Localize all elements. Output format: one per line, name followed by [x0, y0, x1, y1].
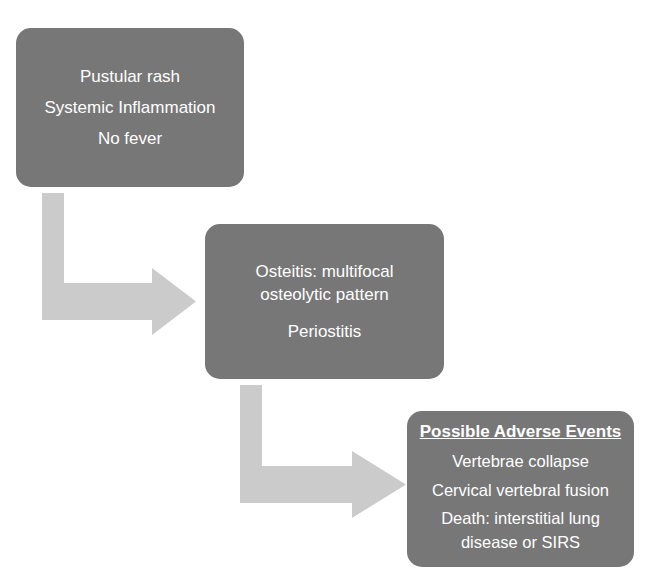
node-osteitis-line-3: Periostitis [215, 320, 434, 343]
node-adverse-line-2: Cervical vertebral fusion [413, 479, 628, 501]
node-osteitis-line-1: Osteitis: multifocal [256, 260, 394, 283]
node-symptoms-line-3: No fever [24, 126, 236, 151]
node-adverse-line-3: Death: interstitial lung [441, 508, 600, 529]
node-adverse-events: Possible Adverse Events Vertebrae collap… [407, 411, 634, 567]
node-osteitis-line-2: osteolytic pattern [256, 283, 394, 306]
node-adverse-title: Possible Adverse Events [413, 421, 628, 443]
node-adverse-line-4: disease or SIRS [441, 532, 600, 553]
node-adverse-group-death: Death: interstitial lung disease or SIRS [441, 504, 600, 557]
node-symptoms-line-1: Pustular rash [24, 64, 236, 89]
flowchart-diagram: Pustular rash Systemic Inflammation No f… [0, 0, 648, 586]
node-symptoms: Pustular rash Systemic Inflammation No f… [16, 28, 244, 187]
node-symptoms-line-2: Systemic Inflammation [24, 95, 236, 120]
node-adverse-line-1: Vertebrae collapse [413, 450, 628, 472]
node-osteitis: Osteitis: multifocal osteolytic pattern … [205, 224, 444, 379]
node-osteitis-group-diagnosis: Osteitis: multifocal osteolytic pattern [256, 260, 394, 306]
